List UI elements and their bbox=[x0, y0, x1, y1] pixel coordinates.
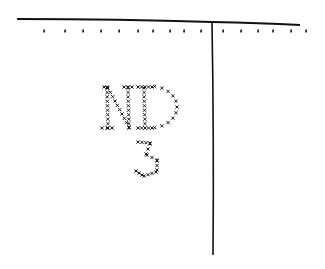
tick-dot bbox=[118, 30, 120, 33]
cross-stitch-monogram bbox=[100, 85, 178, 178]
tick-dot bbox=[169, 30, 171, 33]
tick-dot bbox=[240, 30, 242, 33]
tick-dot bbox=[305, 30, 307, 33]
tick-dot bbox=[257, 30, 259, 33]
monogram-line-2: 3 bbox=[130, 140, 131, 141]
tick-dot bbox=[137, 30, 139, 33]
tick-dot bbox=[43, 30, 45, 33]
tick-dot bbox=[82, 30, 84, 33]
top-line bbox=[17, 19, 300, 25]
tick-dot bbox=[272, 30, 274, 33]
tick-dot bbox=[64, 30, 66, 33]
diagram-canvas bbox=[0, 0, 325, 269]
ruled-lines bbox=[17, 19, 300, 255]
monogram-line-1: ND bbox=[100, 85, 102, 86]
tick-dot bbox=[200, 30, 202, 33]
tick-dot bbox=[290, 30, 292, 33]
tick-dot-row bbox=[43, 30, 307, 33]
tick-dot bbox=[100, 30, 102, 33]
vertical-line bbox=[212, 22, 213, 255]
tick-dot bbox=[222, 30, 224, 33]
tick-dot bbox=[152, 30, 154, 33]
tick-dot bbox=[183, 30, 185, 33]
